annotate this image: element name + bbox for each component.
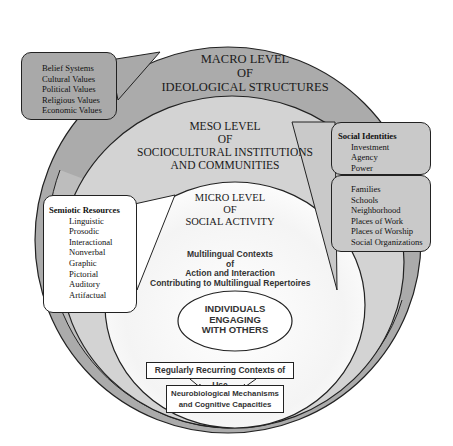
meso-title-line: AND COMMUNITIES (120, 159, 330, 172)
meso-title-line: SOCIOCULTURAL INSTITUTIONS (120, 146, 330, 159)
individuals-line: WITH OTHERS (185, 325, 285, 336)
callout-item: Artifactual (49, 290, 136, 301)
micro-title-line: MICRO LEVEL (165, 192, 295, 204)
callout-item: Graphic (49, 258, 136, 269)
contexts-line: Contributing to Multilingual Repertoires (150, 279, 310, 289)
belief-systems-callout: Belief Systems Cultural Values Political… (21, 52, 117, 120)
callout-item: Religious Values (42, 95, 116, 106)
callout-item: Belief Systems (42, 63, 116, 74)
macro-title-line: OF (150, 66, 340, 80)
micro-level-title: MICRO LEVEL OF SOCIAL ACTIVITY (165, 192, 295, 227)
institutions-callout: Families Schools Neighborhood Places of … (331, 175, 431, 252)
callout-item: Cultural Values (42, 74, 116, 85)
macro-title-line: MACRO LEVEL (150, 52, 340, 66)
callout-heading: Semiotic Resources (49, 205, 136, 216)
macro-title-line: IDEOLOGICAL STRUCTURES (150, 80, 340, 94)
neuro-line: and Cognitive Capacities (167, 399, 283, 410)
callout-heading: Social Identities (338, 131, 430, 142)
meso-title-line: OF (120, 133, 330, 146)
callout-item: Families (351, 184, 430, 195)
meso-level-title: MESO LEVEL OF SOCIOCULTURAL INSTITUTIONS… (120, 120, 330, 172)
callout-item: Social Organizations (351, 237, 430, 248)
callout-item: Neighborhood (351, 205, 430, 216)
callout-item: Auditory (49, 279, 136, 290)
neurobiological-box: Neurobiological Mechanisms and Cognitive… (166, 385, 284, 413)
micro-title-line: SOCIAL ACTIVITY (165, 216, 295, 228)
callout-item: Agency (338, 152, 430, 163)
semiotic-resources-callout: Semiotic Resources Linguistic Prosodic I… (43, 195, 137, 313)
recurring-contexts-box: Regularly Recurring Contexts of Use (146, 362, 294, 379)
callout-item: Places of Worship (351, 226, 430, 237)
meso-title-line: MESO LEVEL (120, 120, 330, 133)
callout-item: Prosodic (49, 226, 136, 237)
neuro-line: Neurobiological Mechanisms (167, 388, 283, 399)
callout-item: Places of Work (351, 216, 430, 227)
individuals-label: INDIVIDUALS ENGAGING WITH OTHERS (185, 304, 285, 336)
social-identities-callout: Social Identities Investment Agency Powe… (331, 122, 431, 175)
callout-item: Political Values (42, 84, 116, 95)
callout-item: Nonverbal (49, 247, 136, 258)
callout-item: Investment (338, 142, 430, 153)
callout-item: Pictorial (49, 269, 136, 280)
callout-item: Power (338, 163, 430, 174)
macro-level-title: MACRO LEVEL OF IDEOLOGICAL STRUCTURES (150, 52, 340, 94)
micro-title-line: OF (165, 204, 295, 216)
callout-item: Schools (351, 195, 430, 206)
callout-item: Linguistic (49, 216, 136, 227)
callout-item: Economic Values (42, 105, 116, 116)
multilingual-contexts-label: Multilingual Contexts of Action and Inte… (150, 250, 310, 288)
callout-item: Interactional (49, 237, 136, 248)
